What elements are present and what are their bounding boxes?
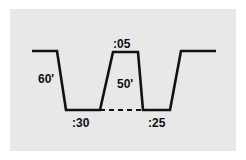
label-center-elevation: 50' xyxy=(117,78,133,90)
label-left-trough-time: :30 xyxy=(72,117,89,129)
figure-root: 60' :05 50' :30 :25 xyxy=(0,0,246,160)
label-right-trough-time: :25 xyxy=(148,117,165,129)
label-left-elevation: 60' xyxy=(38,73,54,85)
label-center-peak-time: :05 xyxy=(113,38,130,50)
